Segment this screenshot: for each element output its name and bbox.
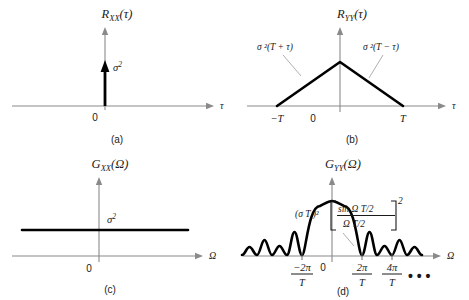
panel-c-value-label: σ2 bbox=[107, 212, 116, 225]
svg-text:2π: 2π bbox=[357, 262, 368, 273]
panel-a-title: RXX(τ) bbox=[101, 7, 133, 23]
panel-d-ellipsis: • • • bbox=[408, 268, 431, 284]
svg-text:T: T bbox=[389, 277, 396, 288]
panel-c-origin-label: 0 bbox=[86, 263, 92, 274]
panel-d-formula-denominator: Ω T/2 bbox=[343, 219, 365, 229]
panel-c-x-axis-arrowhead bbox=[195, 253, 203, 259]
panel-d-gyy: GYY(Ω) Ω (σ T )² sin Ω T/2 Ω T/2 2 −2π T… bbox=[235, 150, 469, 300]
panel-a-caption: (a) bbox=[111, 134, 123, 145]
panel-b-title: RYY(τ) bbox=[336, 7, 367, 23]
panel-d-origin-label: 0 bbox=[320, 262, 326, 273]
svg-text:T: T bbox=[299, 277, 306, 288]
panel-d-tick-label-neg2pi: −2π T bbox=[291, 262, 313, 288]
panel-d-tick-label-2pi: 2π T bbox=[352, 262, 372, 288]
panel-d-x-axis-arrowhead bbox=[433, 253, 441, 259]
panel-b-tick-left: −T bbox=[271, 113, 285, 124]
panel-b-right-annotation: σ ²(T − τ) bbox=[363, 42, 399, 53]
panel-c-caption: (c) bbox=[104, 284, 116, 295]
panel-d-formula-numerator: sin Ω T/2 bbox=[338, 204, 374, 214]
panel-b-left-leader-line bbox=[283, 55, 301, 76]
svg-text:−2π: −2π bbox=[293, 262, 311, 273]
panel-d-x-axis-label: Ω bbox=[447, 250, 454, 261]
panel-a-origin-label: 0 bbox=[92, 112, 98, 123]
panel-a-rxx: RXX(τ) τ σ2 0 (a) bbox=[0, 0, 234, 150]
panel-b-origin-label: 0 bbox=[310, 113, 316, 124]
impulse-arrowhead bbox=[101, 60, 110, 72]
svg-text:T: T bbox=[359, 277, 366, 288]
panel-b-tick-right: T bbox=[400, 113, 407, 124]
panel-d-formula-prefix: (σ T )² bbox=[295, 209, 319, 220]
panel-b-x-axis-label: τ bbox=[452, 100, 456, 111]
panel-b-left-annotation: σ ²(T + τ) bbox=[257, 42, 293, 53]
panel-b-x-axis-arrowhead bbox=[438, 103, 446, 109]
panel-d-y-axis-arrowhead bbox=[329, 177, 335, 185]
panel-c-gxx: GXX(Ω) Ω σ2 0 (c) bbox=[0, 150, 234, 300]
panel-b-caption: (b) bbox=[346, 134, 358, 145]
panel-d-formula-leader-line bbox=[343, 233, 354, 246]
panel-b-right-leader-line bbox=[369, 55, 383, 78]
panel-a-x-axis-label: τ bbox=[220, 100, 224, 111]
panel-c-title: GXX(Ω) bbox=[92, 157, 129, 173]
panel-a-value-label: σ2 bbox=[113, 60, 122, 73]
panel-c-y-axis-arrowhead bbox=[96, 177, 102, 185]
panel-d-caption: (d) bbox=[337, 286, 349, 297]
panel-b-y-axis-arrowhead bbox=[337, 27, 343, 35]
panel-b-ryy: RYY(τ) τ σ ²(T + τ) σ ²(T − τ) −T 0 T (b… bbox=[235, 0, 469, 150]
panel-c-x-axis-label: Ω bbox=[209, 250, 216, 261]
svg-text:4π: 4π bbox=[387, 262, 398, 273]
panel-d-formula-exponent: 2 bbox=[398, 196, 403, 206]
panel-d-title: GYY(Ω) bbox=[325, 157, 361, 173]
panel-a-x-axis-arrowhead bbox=[206, 103, 214, 109]
panel-d-tick-label-4pi: 4π T bbox=[382, 262, 402, 288]
panel-a-y-axis-arrowhead bbox=[102, 27, 108, 35]
